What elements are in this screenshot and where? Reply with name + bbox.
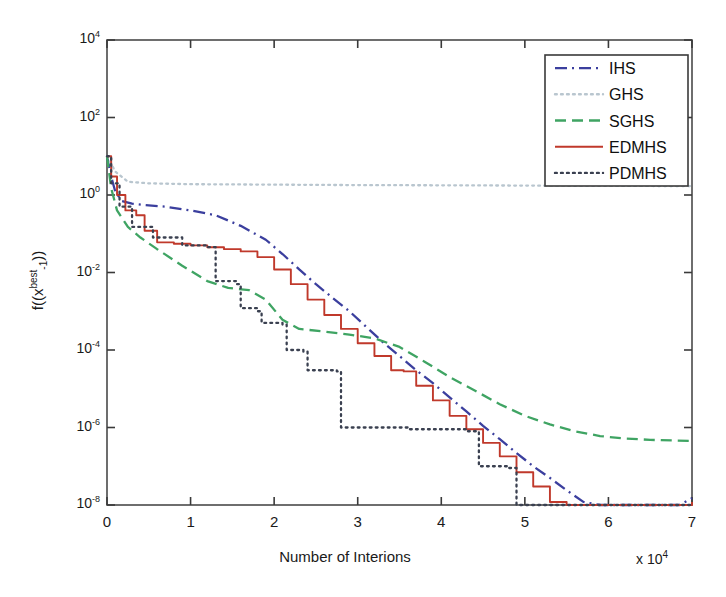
series-line-edmhs bbox=[107, 156, 692, 505]
series-line-sghs bbox=[107, 156, 692, 441]
legend-label-pdmhs: PDMHS bbox=[609, 165, 667, 182]
series-line-ihs bbox=[107, 156, 692, 505]
figure-container: f((xbest-1)) Number of Interions x 104 1… bbox=[0, 0, 726, 597]
legend-box: IHSGHSSGHSEDMHSPDMHS bbox=[545, 55, 688, 186]
legend-label-edmhs: EDMHS bbox=[609, 139, 667, 156]
legend-label-ghs: GHS bbox=[609, 86, 644, 103]
data-curves bbox=[107, 156, 692, 505]
plot-svg: IHSGHSSGHSEDMHSPDMHS bbox=[0, 0, 726, 597]
legend-label-ihs: IHS bbox=[609, 60, 636, 77]
series-line-pdmhs bbox=[107, 156, 692, 505]
legend-label-sghs: SGHS bbox=[609, 113, 654, 130]
